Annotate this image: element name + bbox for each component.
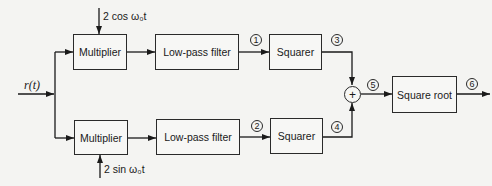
node-3-marker: 3 [331, 34, 343, 46]
top-multiplier-block: Multiplier [73, 34, 127, 70]
top-lowpass-filter-block: Low-pass filter [155, 34, 239, 70]
bottom-multiplier-block: Multiplier [74, 120, 128, 155]
summing-junction: + [344, 86, 361, 103]
top-squarer-block: Squarer [269, 34, 322, 70]
node-3-label: 3 [334, 36, 339, 45]
bottom-multiplier-label: Multiplier [80, 132, 122, 144]
top-multiplier-label: Multiplier [79, 46, 121, 58]
bottom-filter-label: Low-pass filter [164, 131, 232, 143]
input-signal-label: r(t) [24, 78, 40, 93]
square-root-block: Square root [392, 76, 457, 113]
sin-reference-label: 2 sin ω₀t [104, 163, 145, 175]
node-4-marker: 4 [331, 121, 343, 133]
top-filter-label: Low-pass filter [163, 46, 231, 58]
node-6-marker: 6 [466, 78, 478, 90]
node-5-label: 5 [370, 81, 375, 90]
node-4-label: 4 [334, 123, 339, 132]
bottom-squarer-label: Squarer [278, 130, 315, 142]
node-2-label: 2 [254, 122, 259, 131]
bottom-lowpass-filter-block: Low-pass filter [156, 119, 240, 155]
bottom-squarer-block: Squarer [270, 118, 323, 154]
top-squarer-label: Squarer [277, 46, 314, 58]
node-1-label: 1 [253, 36, 258, 45]
plus-icon: + [349, 89, 356, 101]
node-6-label: 6 [469, 80, 474, 89]
square-root-label: Square root [397, 89, 452, 101]
node-1-marker: 1 [250, 34, 262, 46]
cos-reference-label: 2 cos ω₀t [103, 10, 147, 22]
node-2-marker: 2 [251, 120, 263, 132]
node-5-marker: 5 [367, 79, 379, 91]
